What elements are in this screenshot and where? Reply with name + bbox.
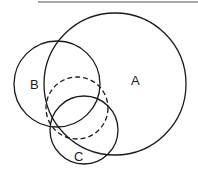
dashed-circle — [46, 77, 108, 139]
label-c: C — [74, 149, 83, 164]
label-a: A — [131, 73, 140, 88]
venn-diagram: A B C — [0, 0, 198, 169]
circle-a — [44, 13, 186, 155]
label-b: B — [30, 77, 39, 92]
